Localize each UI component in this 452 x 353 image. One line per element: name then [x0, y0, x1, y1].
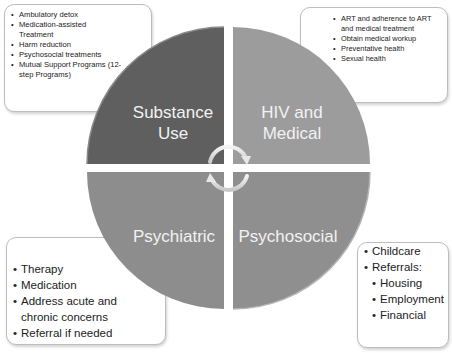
hiv-medical-label-line2: Medical — [247, 123, 337, 144]
psychosocial-label: Psychosocial — [236, 226, 340, 247]
quadrant-wheel — [0, 0, 452, 353]
substance-use-label: Substance Use — [128, 102, 218, 144]
hiv-medical-label: HIV and Medical — [247, 102, 337, 144]
psychiatric-label: Psychiatric — [124, 226, 224, 247]
psychiatric-label-line1: Psychiatric — [124, 226, 224, 247]
substance-use-label-line2: Use — [128, 123, 218, 144]
psychosocial-label-line1: Psychosocial — [236, 226, 340, 247]
hiv-medical-label-line1: HIV and — [247, 102, 337, 123]
substance-use-label-line1: Substance — [128, 102, 218, 123]
